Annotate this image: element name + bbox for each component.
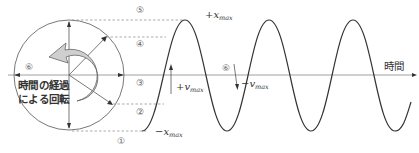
phase-marker-6-wave: ⑥ — [222, 64, 230, 73]
x-max-negative-label: −xmax — [155, 127, 183, 139]
time-axis-label: 時間 — [384, 61, 405, 72]
phase-marker-3: ③ — [136, 79, 144, 88]
phase-marker-1: ① — [117, 137, 125, 146]
arrowhead-radius-lower-icon — [107, 100, 113, 105]
x-max-positive-label: +xmax — [205, 10, 233, 22]
phase-marker-2: ② — [136, 108, 144, 117]
arrowhead-left-icon — [14, 73, 20, 77]
v-max-negative-label: −vmax — [241, 79, 269, 91]
arrowhead-down-icon — [67, 123, 71, 129]
displacement-wave — [142, 20, 411, 131]
phase-marker-6-circle: ⑥ — [25, 63, 33, 72]
v-max-positive-label: +vmax — [176, 82, 204, 94]
rotation-label-line1: 時間の経過 — [18, 80, 70, 91]
phase-marker-5: ⑤ — [136, 6, 144, 15]
diagram-canvas — [0, 0, 419, 153]
rotation-label-line2: による回転 — [18, 94, 70, 105]
phase-marker-4: ④ — [136, 40, 144, 49]
radius-lower — [69, 75, 112, 104]
arrowhead-up-icon — [67, 21, 71, 27]
velocity-down-arrowhead-icon — [235, 84, 239, 90]
velocity-up-arrowhead-icon — [169, 64, 173, 70]
time-axis-arrowhead-icon — [412, 73, 417, 77]
arrowhead-right-icon — [118, 73, 124, 77]
